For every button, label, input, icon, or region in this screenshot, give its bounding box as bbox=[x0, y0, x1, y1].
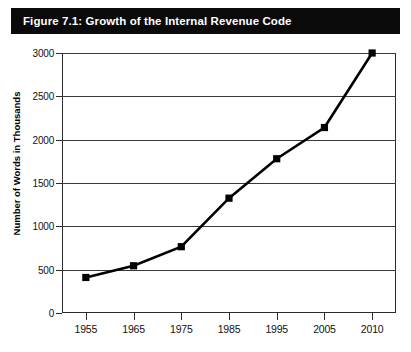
gridline bbox=[62, 140, 396, 141]
y-tick-label: 1500 bbox=[6, 178, 54, 189]
page-title: Figure 7.1: Growth of the Internal Reven… bbox=[11, 15, 292, 27]
figure-container: Figure 7.1: Growth of the Internal Reven… bbox=[0, 0, 411, 352]
y-tick-label: 3000 bbox=[6, 48, 54, 59]
gridline bbox=[62, 226, 396, 227]
x-tick-label: 1985 bbox=[202, 323, 256, 335]
plot-area: Number of Words in Thousands 05001000150… bbox=[0, 40, 411, 352]
gridline bbox=[62, 270, 396, 271]
y-tick-mark bbox=[56, 313, 62, 314]
gridline bbox=[62, 96, 396, 97]
x-tick-mark bbox=[372, 313, 373, 320]
x-tick-label: 2005 bbox=[297, 323, 351, 335]
y-tick-mark bbox=[56, 140, 62, 141]
x-tick-label: 1975 bbox=[154, 323, 208, 335]
gridline bbox=[62, 53, 396, 54]
x-tick-label: 2010 bbox=[345, 323, 399, 335]
y-tick-mark bbox=[56, 53, 62, 54]
y-tick-label: 500 bbox=[6, 264, 54, 275]
y-tick-mark bbox=[56, 226, 62, 227]
x-tick-mark bbox=[181, 313, 182, 320]
y-tick-label: 2500 bbox=[6, 91, 54, 102]
x-tick-label: 1965 bbox=[107, 323, 161, 335]
y-tick-label: 1000 bbox=[6, 221, 54, 232]
y-tick-mark bbox=[56, 270, 62, 271]
x-tick-label: 1955 bbox=[59, 323, 113, 335]
y-tick-mark bbox=[56, 183, 62, 184]
x-tick-mark bbox=[229, 313, 230, 320]
gridline bbox=[62, 183, 396, 184]
y-tick-mark bbox=[56, 96, 62, 97]
y-tick-label: 0 bbox=[6, 308, 54, 319]
x-tick-mark bbox=[324, 313, 325, 320]
y-tick-label: 2000 bbox=[6, 134, 54, 145]
x-tick-label: 1995 bbox=[250, 323, 304, 335]
x-tick-mark bbox=[277, 313, 278, 320]
x-tick-mark bbox=[86, 313, 87, 320]
x-tick-mark bbox=[134, 313, 135, 320]
figure-title-band: Figure 7.1: Growth of the Internal Reven… bbox=[11, 8, 400, 34]
